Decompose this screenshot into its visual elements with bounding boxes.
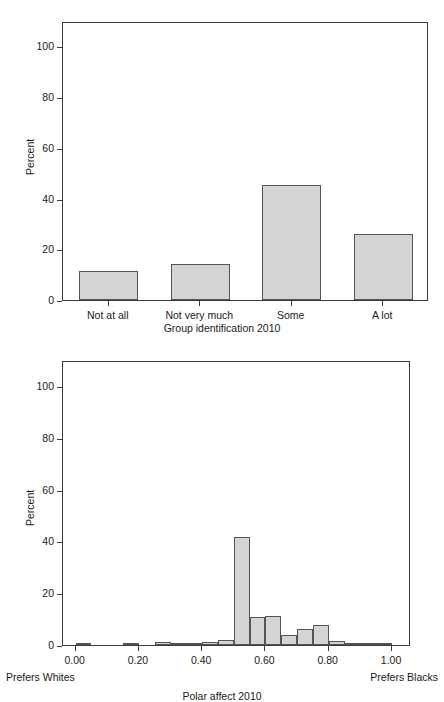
y-axis-tick-label: 60 — [16, 484, 54, 496]
y-axis-tick — [57, 491, 62, 492]
x-axis-title-top-wrapper: Group identification 2010 — [0, 322, 444, 334]
x-axis-category-label: A lot — [332, 309, 432, 321]
y-axis-tick-label: 20 — [16, 243, 54, 255]
histogram-bar — [155, 642, 171, 645]
x-axis-tick-label: 0.40 — [171, 654, 231, 666]
y-axis-tick — [57, 47, 62, 48]
y-axis-tick-label: 40 — [16, 193, 54, 205]
x-axis-tick-label: 0.20 — [108, 654, 168, 666]
x-axis-tick — [391, 646, 392, 651]
y-axis-tick — [57, 594, 62, 595]
histogram-bar — [313, 625, 329, 645]
x-axis-tick — [264, 646, 265, 651]
histogram-bar — [250, 617, 266, 645]
axis-anchor-label-right: Prefers Blacks — [370, 671, 438, 683]
y-axis-tick — [57, 542, 62, 543]
bar — [262, 185, 321, 300]
x-axis-tick-label: 1.00 — [361, 654, 421, 666]
y-axis-tick-label: 80 — [16, 432, 54, 444]
y-axis-tick — [57, 149, 62, 150]
y-axis-tick-label: 80 — [16, 91, 54, 103]
y-axis-tick — [57, 439, 62, 440]
histogram-bar — [297, 629, 313, 645]
x-axis-category-label: Not very much — [149, 309, 249, 321]
x-axis-title-top: Group identification 2010 — [164, 322, 281, 334]
y-axis-tick-label: 100 — [16, 40, 54, 52]
y-axis-tick-label: 60 — [16, 142, 54, 154]
histogram-bar — [281, 635, 297, 645]
x-axis-tick — [328, 646, 329, 651]
axis-anchor-label-left: Prefers Whites — [6, 671, 75, 683]
x-axis-tick-label: 0.60 — [234, 654, 294, 666]
y-axis-tick — [57, 646, 62, 647]
histogram-bar — [265, 616, 281, 645]
histogram-bar — [186, 643, 202, 645]
x-axis-title-bottom: Polar affect 2010 — [182, 690, 261, 702]
bar-series-group-identification — [63, 23, 427, 300]
x-axis-tick — [138, 646, 139, 651]
x-axis-tick — [291, 301, 292, 306]
y-axis-tick-label: 0 — [16, 294, 54, 306]
y-axis-tick-label: 100 — [16, 380, 54, 392]
histogram-bar — [329, 641, 345, 645]
x-axis-title-bottom-wrapper: Polar affect 2010 — [0, 690, 444, 702]
x-axis-category-label: Some — [241, 309, 341, 321]
histogram-bar — [234, 537, 250, 645]
histogram-polar-affect: Percent 020406080100 0.000.200.400.600.8… — [0, 348, 444, 696]
histogram-bar — [123, 643, 139, 645]
plot-area-bottom — [62, 361, 410, 646]
x-axis-tick-label: 0.00 — [45, 654, 105, 666]
histogram-bar — [360, 643, 376, 645]
histogram-series-polar-affect — [63, 362, 409, 645]
bar — [354, 234, 413, 300]
y-axis-tick — [57, 200, 62, 201]
bar — [79, 271, 138, 300]
y-axis-tick — [57, 98, 62, 99]
histogram-bar — [376, 643, 392, 645]
histogram-bar — [171, 643, 187, 645]
x-axis-tick — [382, 301, 383, 306]
bar — [171, 264, 230, 300]
y-axis-tick — [57, 250, 62, 251]
y-axis-tick-label: 20 — [16, 587, 54, 599]
x-axis-tick-label: 0.80 — [298, 654, 358, 666]
y-axis-tick-label: 40 — [16, 535, 54, 547]
histogram-bar — [345, 643, 361, 645]
x-axis-tick — [108, 301, 109, 306]
x-axis-tick — [75, 646, 76, 651]
x-axis-tick — [201, 646, 202, 651]
y-axis-tick-label: 0 — [16, 639, 54, 651]
y-axis-tick — [57, 387, 62, 388]
bar-chart-group-identification: Percent 020406080100 Not at allNot very … — [0, 0, 444, 348]
plot-area-top — [62, 22, 428, 301]
x-axis-tick — [199, 301, 200, 306]
y-axis-tick — [57, 301, 62, 302]
histogram-bar — [218, 640, 234, 645]
histogram-bar — [76, 643, 92, 645]
histogram-bar — [202, 642, 218, 645]
x-axis-category-label: Not at all — [58, 309, 158, 321]
